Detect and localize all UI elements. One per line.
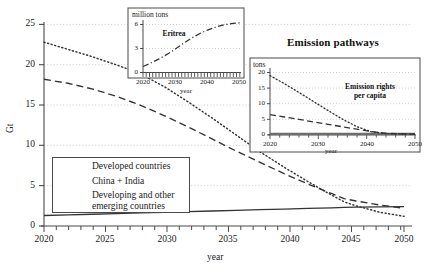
inset-percapita-y-tick-5: 5: [251, 115, 265, 123]
inset-eritrea-x-tick-2050: 2050: [224, 78, 254, 86]
inset-percapita-note-line1: Emission rights: [345, 82, 395, 91]
inset-eritrea-x-axis-label: year: [180, 87, 192, 95]
x-tick-2040: 2040: [270, 234, 310, 244]
legend-label-developing-line1: Developing and other: [92, 190, 174, 200]
legend-label-developing-line2: emerging countries: [92, 201, 165, 211]
y-tick-25: 25: [13, 18, 35, 28]
inset-eritrea-y-tick-6: 6: [124, 20, 138, 28]
inset-eritrea-x-tick-2030: 2030: [160, 78, 190, 86]
inset-eritrea-x-tick-2040: 2040: [192, 78, 222, 86]
page-title: Emission pathways: [287, 36, 379, 48]
inset-eritrea-unit-label: million tons: [132, 10, 168, 19]
x-tick-2045: 2045: [331, 234, 371, 244]
y-tick-20: 20: [13, 59, 35, 69]
y-tick-15: 15: [13, 99, 35, 109]
legend-item-developing[interactable]: Developing and other emerging countries: [92, 190, 174, 212]
inset-percapita-x-tick-2020: 2020: [255, 140, 285, 148]
y-tick-10: 10: [13, 139, 35, 149]
x-tick-2050: 2050: [384, 234, 424, 244]
x-tick-2030: 2030: [147, 234, 187, 244]
inset-eritrea-country-label: Eritrea: [152, 29, 196, 38]
inset-eritrea-y-tick-3: 3: [124, 44, 138, 52]
legend-item-china-india[interactable]: China + India: [92, 176, 144, 187]
main-y-ticks: [39, 24, 44, 226]
emission-pathways-figure: Developed countries China + India Develo…: [0, 0, 428, 275]
y-tick-5: 5: [13, 180, 35, 190]
inset-percapita-y-tick-15: 15: [251, 84, 265, 92]
inset-percapita-note-line2: per capita: [354, 91, 386, 100]
inset-percapita-y-tick-10: 10: [251, 99, 265, 107]
inset-percapita-note: Emission rights per capita: [327, 82, 413, 100]
x-tick-2035: 2035: [208, 234, 248, 244]
inset-percapita-y-tick-0: 0: [251, 130, 265, 138]
legend-label-china-india: China + India: [92, 176, 144, 186]
inset-percapita-graphics: [250, 58, 420, 152]
inset-percapita-x-tick-2040: 2040: [352, 140, 382, 148]
inset-percapita-x-tick-2050: 2050: [400, 140, 428, 148]
x-tick-2020: 2020: [24, 234, 64, 244]
legend-label-developed: Developed countries: [92, 161, 170, 171]
main-x-ticks: [44, 226, 404, 232]
y-axis-label: Gt: [5, 124, 15, 134]
inset-eritrea-y-tick-0: 0: [124, 68, 138, 76]
x-axis-label: year: [207, 252, 223, 262]
y-tick-0: 0: [13, 220, 35, 230]
inset-eritrea-x-tick-2020: 2020: [128, 78, 158, 86]
legend-item-developed[interactable]: Developed countries: [92, 161, 170, 172]
inset-percapita-y-tick-20: 20: [251, 68, 265, 76]
inset-percapita-x-axis-label: year: [325, 147, 337, 155]
x-tick-2025: 2025: [85, 234, 125, 244]
